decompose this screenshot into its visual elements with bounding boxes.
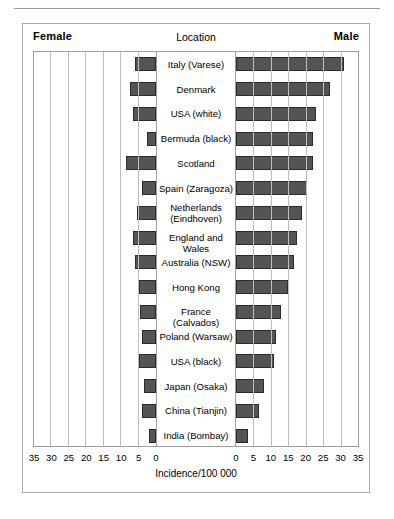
location-label: Netherlands(Eindhoven) — [157, 202, 235, 224]
location-row: India (Bombay) — [157, 423, 235, 448]
bar — [236, 429, 248, 443]
bar — [236, 132, 313, 146]
bar — [126, 156, 156, 170]
location-label: Scotland — [157, 158, 235, 169]
chart-panel: Female Location Male Italy (Varese)Denma… — [22, 23, 370, 493]
female-plot-side — [33, 51, 157, 447]
figure-root: Female Location Male Italy (Varese)Denma… — [0, 0, 394, 519]
bar — [139, 280, 156, 294]
bar — [142, 404, 156, 418]
bar — [236, 156, 313, 170]
axis-tick-label: 20 — [300, 452, 311, 463]
location-label: Spain (Zaragoza) — [157, 183, 235, 194]
location-row: USA (white) — [157, 102, 235, 127]
location-row: Poland (Warsaw) — [157, 324, 235, 349]
bar — [236, 107, 316, 121]
gridline — [341, 52, 342, 446]
gridline — [103, 52, 104, 446]
plot-area: Italy (Varese)DenmarkUSA (white)Bermuda … — [33, 51, 359, 447]
location-row: Netherlands(Eindhoven) — [157, 201, 235, 226]
axis-tick-label: 25 — [318, 452, 329, 463]
header-label-location: Location — [23, 31, 369, 43]
gridline — [288, 52, 289, 446]
axis-tick-label: 10 — [266, 452, 277, 463]
bar — [142, 181, 156, 195]
bar — [236, 404, 259, 418]
location-row: England and Wales — [157, 225, 235, 250]
bar — [236, 379, 264, 393]
axis-tick-label: 5 — [136, 452, 141, 463]
bar — [147, 132, 156, 146]
x-axis-female-ticks: 35302520151050 — [33, 449, 157, 469]
bar — [140, 305, 156, 319]
location-row: France (Calvados) — [157, 300, 235, 325]
location-row: Hong Kong — [157, 275, 235, 300]
x-axis: 35302520151050 05101520253035 — [33, 449, 359, 469]
axis-tick-label: 30 — [46, 452, 57, 463]
location-label: Hong Kong — [157, 282, 235, 293]
location-row: Spain (Zaragoza) — [157, 176, 235, 201]
location-row: Bermuda (black) — [157, 126, 235, 151]
axis-tick-label: 35 — [29, 452, 40, 463]
axis-tick-label: 25 — [64, 452, 75, 463]
axis-tick-label: 15 — [98, 452, 109, 463]
x-axis-male-ticks: 05101520253035 — [235, 449, 359, 469]
axis-tick-label: 0 — [153, 452, 158, 463]
axis-tick-label: 20 — [81, 452, 92, 463]
bar — [142, 330, 156, 344]
gridline — [138, 52, 139, 446]
axis-tick-label: 0 — [233, 452, 238, 463]
gridline — [85, 52, 86, 446]
header-label-male: Male — [334, 30, 359, 42]
axis-tick-label: 30 — [335, 452, 346, 463]
bar — [236, 255, 294, 269]
location-label: Poland (Warsaw) — [157, 331, 235, 342]
location-label: Japan (Osaka) — [157, 381, 235, 392]
male-plot-side — [235, 51, 359, 447]
location-label: Denmark — [157, 84, 235, 95]
location-row: USA (black) — [157, 349, 235, 374]
bar — [236, 280, 288, 294]
location-row: Australia (NSW) — [157, 250, 235, 275]
bar — [236, 57, 344, 71]
location-label: Bermuda (black) — [157, 133, 235, 144]
location-label: Australia (NSW) — [157, 257, 235, 268]
gridline — [120, 52, 121, 446]
location-label: Italy (Varese) — [157, 59, 235, 70]
location-label-column: Italy (Varese)DenmarkUSA (white)Bermuda … — [157, 51, 235, 447]
location-label: USA (white) — [157, 108, 235, 119]
location-row: Denmark — [157, 77, 235, 102]
bar — [236, 305, 281, 319]
gridline — [271, 52, 272, 446]
gridline — [68, 52, 69, 446]
gridline — [50, 52, 51, 446]
bar — [236, 206, 302, 220]
x-axis-caption: Incidence/100 000 — [23, 468, 369, 479]
bar — [137, 206, 156, 220]
location-label: USA (black) — [157, 356, 235, 367]
location-label: China (Tianjin) — [157, 405, 235, 416]
location-row: China (Tianjin) — [157, 399, 235, 424]
location-label: India (Bombay) — [157, 430, 235, 441]
axis-tick-label: 15 — [283, 452, 294, 463]
bar — [149, 429, 156, 443]
axis-tick-label: 35 — [353, 452, 364, 463]
gridline — [253, 52, 254, 446]
chart-header: Female Location Male — [23, 24, 369, 50]
axis-tick-label: 10 — [116, 452, 127, 463]
bar — [130, 82, 156, 96]
gridline — [323, 52, 324, 446]
bar — [144, 379, 156, 393]
location-row: Japan (Osaka) — [157, 374, 235, 399]
bar — [139, 354, 156, 368]
location-row: Scotland — [157, 151, 235, 176]
location-row: Italy (Varese) — [157, 52, 235, 77]
top-rule-divider — [14, 8, 380, 9]
bar — [236, 354, 274, 368]
bar — [236, 82, 330, 96]
gridline — [306, 52, 307, 446]
axis-tick-label: 5 — [251, 452, 256, 463]
location-labels: Italy (Varese)DenmarkUSA (white)Bermuda … — [157, 52, 235, 446]
